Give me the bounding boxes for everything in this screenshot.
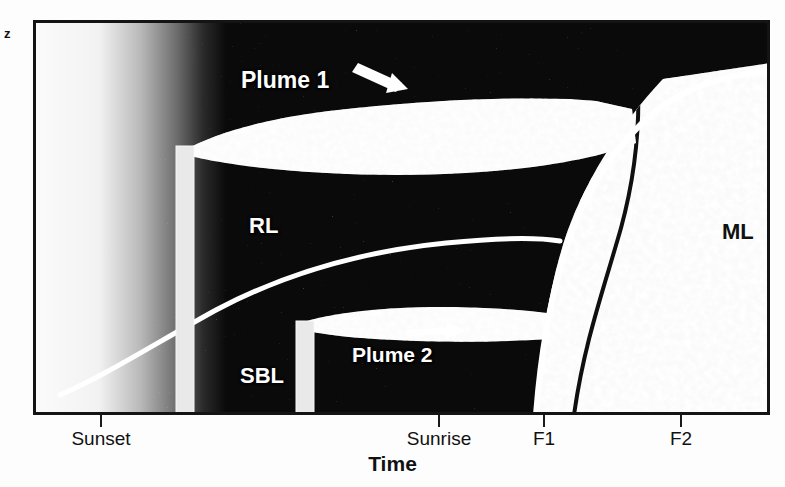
tick-label-sunrise: Sunrise bbox=[407, 428, 471, 450]
y-axis-label: z bbox=[4, 26, 11, 41]
mixed-layer-label: ML bbox=[722, 219, 754, 245]
residual-layer-label: RL bbox=[249, 213, 278, 239]
plume-1-label: Plume 1 bbox=[241, 67, 329, 94]
figure-canvas: z bbox=[0, 0, 785, 487]
plume-2-label: Plume 2 bbox=[352, 343, 433, 367]
tick-sunrise bbox=[438, 415, 440, 427]
tick-label-f1: F1 bbox=[533, 428, 555, 450]
tick-label-sunset: Sunset bbox=[71, 428, 130, 450]
tick-label-f2: F2 bbox=[670, 428, 692, 450]
x-axis-label: Time bbox=[0, 452, 785, 476]
stable-boundary-layer-label: SBL bbox=[240, 363, 284, 389]
tick-sunset bbox=[100, 415, 102, 427]
short-stack bbox=[296, 321, 314, 412]
plot-frame: Plume 1 Plume 2 RL SBL ML bbox=[33, 20, 770, 415]
plot-area: Plume 1 Plume 2 RL SBL ML bbox=[36, 23, 767, 412]
tall-stack bbox=[176, 146, 194, 412]
tick-f1 bbox=[543, 415, 545, 427]
tick-f2 bbox=[680, 415, 682, 427]
